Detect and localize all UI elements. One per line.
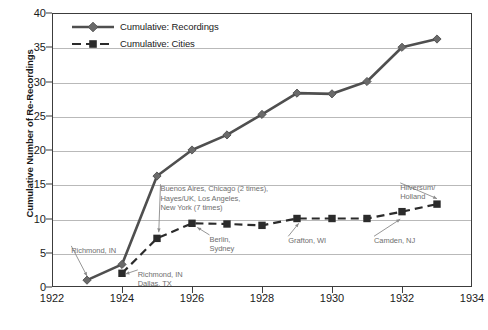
data-point-marker (363, 215, 370, 222)
x-tick-label: 1922 (40, 292, 64, 304)
annotation-arrow-icon (288, 223, 299, 236)
x-tick-mark (122, 287, 123, 293)
data-point-marker (398, 208, 405, 215)
x-tick-label: 1926 (180, 292, 204, 304)
data-point-marker (83, 276, 91, 284)
data-point-marker (433, 35, 441, 43)
legend-item-recordings: Cumulative: Recordings (70, 18, 250, 35)
legend-label-recordings: Cumulative: Recordings (120, 21, 219, 32)
x-tick-mark (332, 287, 333, 293)
data-point-marker (223, 220, 230, 227)
y-tick-label: 30 (20, 76, 46, 88)
y-tick-label: 10 (20, 213, 46, 225)
legend-label-cities: Cumulative: Cities (120, 38, 195, 49)
x-tick-label: 1928 (250, 292, 274, 304)
annotation-label: Buenos Aires, Chicago (2 times), Hayes/U… (161, 184, 269, 212)
data-point-marker (293, 215, 300, 222)
data-point-marker (433, 200, 440, 207)
x-tick-mark (262, 287, 263, 293)
x-tick-mark (402, 287, 403, 293)
annotation-label: Berlin, Sydney (210, 235, 235, 254)
data-point-marker (328, 90, 336, 98)
y-tick-label: 25 (20, 110, 46, 122)
annotation-arrow-icon (197, 227, 209, 235)
x-tick-label: 1934 (460, 292, 484, 304)
legend-key-square-icon (70, 37, 116, 51)
y-tick-label: 15 (20, 178, 46, 190)
y-tick-label: 35 (20, 41, 46, 53)
annotation-arrow-icon (374, 219, 400, 236)
annotation-arrow-icon (126, 270, 138, 275)
annotation-label: Richmond, IN Dallas, TX (138, 270, 183, 289)
data-point-marker (258, 222, 265, 229)
annotation-label: Hilversum/ Holland (400, 183, 435, 202)
data-point-marker (188, 220, 195, 227)
x-tick-label: 1930 (320, 292, 344, 304)
annotation-label: Grafton, WI (288, 236, 326, 245)
x-tick-label: 1932 (390, 292, 414, 304)
annotation-label: Camden, NJ (374, 236, 415, 245)
chart-legend: Cumulative: Recordings Cumulative: Citie… (70, 18, 250, 52)
y-tick-label: 40 (20, 7, 46, 19)
data-point-marker (118, 260, 126, 268)
y-tick-label: 5 (20, 247, 46, 259)
x-tick-mark (192, 287, 193, 293)
y-tick-label: 20 (20, 144, 46, 156)
chart-figure: Cumulative Number of Re-Recordings 05101… (0, 0, 488, 330)
data-point-marker (118, 270, 125, 277)
legend-key-diamond-icon (70, 20, 116, 34)
legend-item-cities: Cumulative: Cities (70, 35, 250, 52)
data-point-marker (153, 235, 160, 242)
data-point-marker (328, 215, 335, 222)
annotation-label: Richmond, IN (71, 246, 116, 255)
x-tick-label: 1924 (110, 292, 134, 304)
